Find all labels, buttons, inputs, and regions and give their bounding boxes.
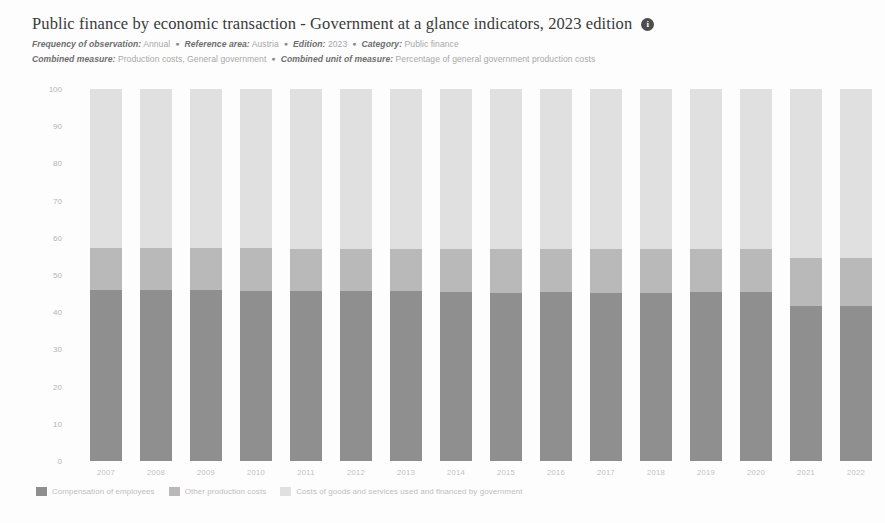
x-axis-tick-label: 2015 xyxy=(497,468,515,477)
bar-segment[interactable] xyxy=(790,306,822,461)
legend-label: Other production costs xyxy=(185,487,267,496)
x-axis-tick-label: 2010 xyxy=(247,468,265,477)
legend-swatch xyxy=(169,487,180,496)
bar-segment[interactable] xyxy=(90,89,122,248)
bar-group[interactable] xyxy=(740,89,772,461)
x-axis-tick-label: 2011 xyxy=(297,468,315,477)
bar-group[interactable] xyxy=(790,89,822,461)
bar-segment[interactable] xyxy=(590,249,622,293)
bar-segment[interactable] xyxy=(90,248,122,290)
legend-item[interactable]: Other production costs xyxy=(169,487,267,496)
bar-group[interactable] xyxy=(690,89,722,461)
bar-segment[interactable] xyxy=(440,89,472,249)
bar-segment[interactable] xyxy=(140,248,172,290)
bar-segment[interactable] xyxy=(390,249,422,291)
x-axis-tick-label: 2020 xyxy=(747,468,765,477)
bar-group[interactable] xyxy=(140,89,172,461)
bar-segment[interactable] xyxy=(840,258,872,306)
legend-label: Costs of goods and services used and fin… xyxy=(296,487,522,496)
bar-segment[interactable] xyxy=(390,291,422,461)
legend-swatch xyxy=(280,487,291,496)
bar-group[interactable] xyxy=(190,89,222,461)
bar-segment[interactable] xyxy=(440,249,472,292)
x-axis-tick-label: 2017 xyxy=(597,468,615,477)
bar-segment[interactable] xyxy=(190,248,222,290)
bar-segment[interactable] xyxy=(290,89,322,249)
legend-item[interactable]: Costs of goods and services used and fin… xyxy=(280,487,522,496)
x-axis-tick-label: 2016 xyxy=(547,468,565,477)
legend-swatch xyxy=(36,487,47,496)
bar-segment[interactable] xyxy=(840,89,872,258)
legend-label: Compensation of employees xyxy=(52,487,155,496)
bar-group[interactable] xyxy=(440,89,472,461)
x-axis-tick-label: 2008 xyxy=(147,468,165,477)
bar-segment[interactable] xyxy=(640,89,672,249)
bar-segment[interactable] xyxy=(590,89,622,249)
x-axis-tick-label: 2021 xyxy=(797,468,815,477)
plot-area: 0102030405060708090100 20072008200920102… xyxy=(0,0,885,523)
bar-segment[interactable] xyxy=(690,292,722,461)
bar-segment[interactable] xyxy=(640,293,672,461)
bar-segment[interactable] xyxy=(390,89,422,249)
bar-segment[interactable] xyxy=(190,290,222,461)
x-axis-tick-label: 2012 xyxy=(347,468,365,477)
bar-group[interactable] xyxy=(540,89,572,461)
bar-segment[interactable] xyxy=(490,293,522,461)
bar-segment[interactable] xyxy=(540,249,572,292)
bar-group[interactable] xyxy=(290,89,322,461)
bar-group[interactable] xyxy=(590,89,622,461)
x-axis-tick-label: 2014 xyxy=(447,468,465,477)
bar-segment[interactable] xyxy=(740,292,772,461)
bar-group[interactable] xyxy=(640,89,672,461)
bar-group[interactable] xyxy=(90,89,122,461)
bar-group[interactable] xyxy=(840,89,872,461)
bar-segment[interactable] xyxy=(240,89,272,248)
bar-segment[interactable] xyxy=(140,89,172,248)
bar-segment[interactable] xyxy=(690,89,722,249)
bar-segment[interactable] xyxy=(140,290,172,461)
bar-segment[interactable] xyxy=(590,293,622,461)
bar-segment[interactable] xyxy=(290,291,322,461)
bars-layer: 2007200820092010201120122013201420152016… xyxy=(0,0,885,523)
legend-item[interactable]: Compensation of employees xyxy=(36,487,155,496)
bar-segment[interactable] xyxy=(840,306,872,461)
bar-group[interactable] xyxy=(490,89,522,461)
bar-segment[interactable] xyxy=(490,249,522,293)
bar-group[interactable] xyxy=(240,89,272,461)
x-axis-tick-label: 2022 xyxy=(847,468,865,477)
x-axis-tick-label: 2013 xyxy=(397,468,415,477)
x-axis-tick-label: 2007 xyxy=(97,468,115,477)
bar-segment[interactable] xyxy=(290,249,322,292)
x-axis-tick-label: 2018 xyxy=(647,468,665,477)
bar-segment[interactable] xyxy=(340,291,372,461)
x-axis-tick-label: 2019 xyxy=(697,468,715,477)
bar-segment[interactable] xyxy=(740,89,772,249)
bar-segment[interactable] xyxy=(190,89,222,248)
bar-segment[interactable] xyxy=(240,291,272,461)
bar-segment[interactable] xyxy=(340,249,372,292)
bar-segment[interactable] xyxy=(90,290,122,461)
bar-group[interactable] xyxy=(340,89,372,461)
bar-segment[interactable] xyxy=(640,249,672,293)
bar-segment[interactable] xyxy=(540,292,572,461)
bar-segment[interactable] xyxy=(240,248,272,290)
bar-segment[interactable] xyxy=(340,89,372,249)
bar-segment[interactable] xyxy=(690,249,722,292)
chart-legend: Compensation of employeesOther productio… xyxy=(36,487,522,496)
bar-segment[interactable] xyxy=(490,89,522,249)
x-axis-tick-label: 2009 xyxy=(197,468,215,477)
bar-segment[interactable] xyxy=(740,249,772,292)
bar-segment[interactable] xyxy=(540,89,572,249)
chart-page: Public finance by economic transaction -… xyxy=(0,0,885,523)
bar-segment[interactable] xyxy=(440,292,472,461)
bar-segment[interactable] xyxy=(790,258,822,306)
bar-group[interactable] xyxy=(390,89,422,461)
bar-segment[interactable] xyxy=(790,89,822,258)
